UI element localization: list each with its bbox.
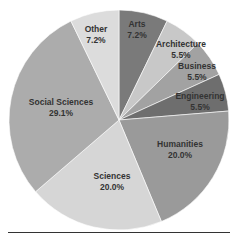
slice-label-value: 5.5%	[175, 102, 224, 113]
slice-label-value: 5.5%	[178, 72, 216, 83]
baseline-divider	[8, 232, 230, 233]
slice-label-business: Business5.5%	[178, 61, 216, 83]
slice-label-value: 7.2%	[127, 30, 146, 41]
slice-label-name: Engineering	[175, 91, 224, 102]
slice-label-humanities: Humanities20.0%	[157, 139, 203, 161]
slice-label-other: Other7.2%	[85, 24, 108, 46]
slice-label-name: Business	[178, 61, 216, 72]
slice-label-value: 7.2%	[85, 35, 108, 46]
slice-label-name: Arts	[127, 19, 146, 30]
slice-label-value: 20.0%	[94, 182, 131, 193]
slice-label-engineering: Engineering5.5%	[175, 91, 224, 113]
slice-label-name: Social Sciences	[29, 97, 93, 108]
slice-label-name: Humanities	[157, 139, 203, 150]
slice-label-name: Other	[85, 24, 108, 35]
slice-label-name: Sciences	[94, 171, 131, 182]
slice-label-value: 20.0%	[157, 150, 203, 161]
slice-label-value: 29.1%	[29, 108, 93, 119]
slice-label-sciences: Sciences20.0%	[94, 171, 131, 193]
slice-label-architecture: Architecture5.5%	[156, 39, 206, 61]
slice-label-social-sciences: Social Sciences29.1%	[29, 97, 93, 119]
slice-label-value: 5.5%	[156, 50, 206, 61]
slice-label-arts: Arts7.2%	[127, 19, 146, 41]
slice-label-name: Architecture	[156, 39, 206, 50]
